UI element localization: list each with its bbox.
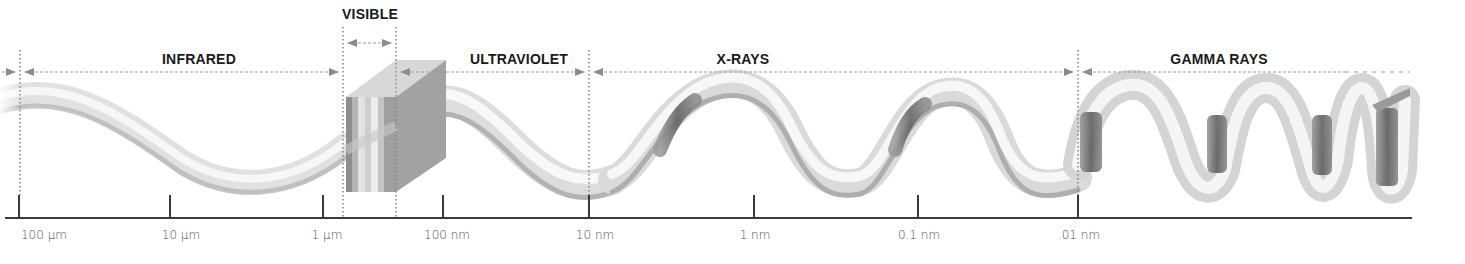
tick-label-1um: 1 μm [312, 228, 343, 242]
tick-label-0-01nm: .01 nm [1058, 228, 1100, 242]
tick-label-10nm: 10 nm [576, 228, 614, 242]
spectrum-graphic [0, 0, 1465, 264]
band-label-ultraviolet: ULTRAVIOLET [470, 51, 568, 67]
band-label-x-rays: X-RAYS [717, 51, 770, 67]
em-spectrum-diagram: INFRARED VISIBLE ULTRAVIOLET X-RAYS GAMM… [0, 0, 1465, 264]
band-label-infrared: INFRARED [162, 51, 236, 67]
tick-label-100nm: 100 nm [424, 228, 470, 242]
tick-label-0-1nm: 0.1 nm [898, 228, 940, 242]
tick-label-1nm: 1 nm [740, 228, 771, 242]
band-label-gamma-rays: GAMMA RAYS [1170, 51, 1267, 67]
tick-label-100um: 100 μm [21, 228, 67, 242]
wave-ribbon [0, 77, 1410, 197]
band-label-visible: VISIBLE [342, 6, 398, 22]
axis-ticks [19, 195, 1078, 218]
tick-label-10um: 10 μm [162, 228, 200, 242]
